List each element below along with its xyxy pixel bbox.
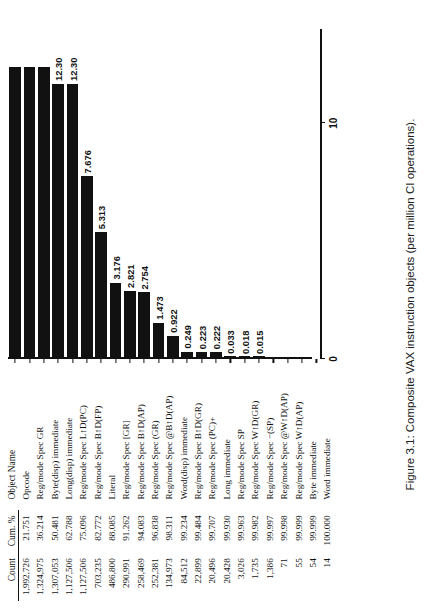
category-tick xyxy=(58,359,59,363)
row-object-name: Reg/mode Spec @B↑D(AP) xyxy=(163,387,177,509)
row-object-name: Reg/mode Spec −(SP) xyxy=(263,387,277,509)
row-count: 1,324,975 xyxy=(34,552,48,601)
category-tick xyxy=(144,359,145,363)
row-count: 258,469 xyxy=(134,552,148,601)
row-cum-pct: 99.930 xyxy=(220,510,234,553)
bar-row xyxy=(295,7,309,359)
row-cum-pct: 99.999 xyxy=(306,510,320,553)
bar-row: 12.30 xyxy=(51,7,65,359)
bar-value-label: 0.033 xyxy=(225,330,236,356)
column-header-cum-pct: Cum. % xyxy=(8,510,19,553)
bar-value-label: 0.223 xyxy=(196,326,207,352)
row-cum-pct: 36.214 xyxy=(34,510,48,553)
category-tick xyxy=(43,359,44,363)
bar-row: 0.249 xyxy=(180,7,194,359)
bar-row: 5.313 xyxy=(94,7,108,359)
row-count: 14 xyxy=(321,552,335,601)
bar-value-label: 1.473 xyxy=(153,296,164,322)
row-object-name: Reg/mode Spec W↑D(AP) xyxy=(292,387,306,509)
bar-chart: 12.3012.307.6765.3133.1762.8212.7541.473… xyxy=(8,7,438,359)
row-cum-pct: 100.000 xyxy=(321,510,335,553)
bar-value-label: 2.754 xyxy=(139,266,150,292)
bar-value-label: 0.249 xyxy=(182,325,193,351)
table-row: 252,38196.838Reg/mode Spec (GR) xyxy=(149,387,163,601)
table-row: 134,97398.311Reg/mode Spec @B↑D(AP) xyxy=(163,387,177,601)
row-count: 54 xyxy=(306,552,320,601)
bar-value-label: 0.015 xyxy=(254,331,265,357)
row-object-name: Byte(disp) immediate xyxy=(48,387,62,509)
row-count: 1,386 xyxy=(263,552,277,601)
figure-caption: Figure 3.1: Composite VAX instruction ob… xyxy=(404,0,416,609)
row-cum-pct: 99.997 xyxy=(263,510,277,553)
row-cum-pct: 21.751 xyxy=(19,510,34,553)
table-body: 1,992,72621.751Opcode1,324,97536.214Reg/… xyxy=(19,387,335,601)
category-tick xyxy=(215,359,216,363)
row-count: 1,992,726 xyxy=(19,552,34,601)
row-cum-pct: 98.311 xyxy=(163,510,177,553)
row-cum-pct: 96.838 xyxy=(149,510,163,553)
category-tick xyxy=(230,359,231,363)
row-cum-pct: 99.998 xyxy=(278,510,292,553)
table-row: 20,42899.930Long immediate xyxy=(220,387,234,601)
table-row: 258,46994.083Reg/mode Spec B↑D(AP) xyxy=(134,387,148,601)
value-axis: 010 xyxy=(320,7,360,359)
bar-row: 0.018 xyxy=(238,7,252,359)
bar-row xyxy=(22,7,36,359)
bar-value-label: 3.176 xyxy=(110,256,121,282)
category-tick xyxy=(201,359,202,363)
table-row: 290,99191.262Reg/mode Spec [GR] xyxy=(120,387,134,601)
row-count: 20,428 xyxy=(220,552,234,601)
bar-row: 2.754 xyxy=(137,7,151,359)
row-object-name: Reg/mode Spec (GR) xyxy=(149,387,163,509)
row-count: 1,127,506 xyxy=(77,552,91,601)
bar-row: 0.222 xyxy=(209,7,223,359)
table-row: 22,89999.484Reg/mode Spec B↑D(GR) xyxy=(192,387,206,601)
bar-value-label: 12.30 xyxy=(53,58,64,84)
category-tick xyxy=(29,359,30,363)
row-count: 134,973 xyxy=(163,552,177,601)
table-row: 84,51299.234Word(disp) immediate xyxy=(177,387,191,601)
bar xyxy=(124,291,136,357)
row-count: 3,026 xyxy=(235,552,249,601)
category-tick xyxy=(172,359,173,363)
table-row: 20,49699.707Reg/mode Spec (PC)+ xyxy=(206,387,220,601)
rotated-figure-stage: Count Cum. % Object Name 1,992,72621.751… xyxy=(0,0,445,609)
bar-row: 0.223 xyxy=(194,7,208,359)
row-cum-pct: 99.234 xyxy=(177,510,191,553)
bar xyxy=(196,352,208,357)
category-tick xyxy=(244,359,245,363)
row-count: 55 xyxy=(292,552,306,601)
bar-row: 7.676 xyxy=(80,7,94,359)
category-tick xyxy=(158,359,159,363)
bar-row xyxy=(281,7,295,359)
bar-row: 2.821 xyxy=(123,7,137,359)
bar-row: 1.473 xyxy=(151,7,165,359)
row-count: 1,735 xyxy=(249,552,263,601)
instruction-objects-table: Count Cum. % Object Name 1,992,72621.751… xyxy=(8,387,335,601)
bar-value-label: 0.018 xyxy=(239,331,250,357)
table-header: Count Cum. % Object Name xyxy=(8,387,19,601)
row-cum-pct: 99.963 xyxy=(235,510,249,553)
bar xyxy=(110,283,122,358)
row-object-name: Reg/mode Spec L↑D(PC) xyxy=(77,387,91,509)
bar-value-label: 2.821 xyxy=(124,264,135,290)
row-object-name: Reg/mode Spec GR xyxy=(34,387,48,509)
category-tick xyxy=(301,359,302,363)
row-count: 252,381 xyxy=(149,552,163,601)
bar-row: 3.176 xyxy=(108,7,122,359)
row-object-name: Reg/mode Spec (PC)+ xyxy=(206,387,220,509)
bar xyxy=(138,293,150,358)
table-row: 703,23582.772Reg/mode Spec B↑D(FP) xyxy=(91,387,105,601)
table-row: 3,02699.963Reg/mode Spec SP xyxy=(235,387,249,601)
category-tick xyxy=(115,359,116,363)
bar xyxy=(95,232,107,357)
table-row: 1,307,05350.481Byte(disp) immediate xyxy=(48,387,62,601)
table-row: 1,127,50662.788Long(disp) immediate xyxy=(62,387,76,601)
row-cum-pct: 82.772 xyxy=(91,510,105,553)
category-tick xyxy=(187,359,188,363)
category-tick xyxy=(258,359,259,363)
row-object-name: Long immediate xyxy=(220,387,234,509)
row-count: 703,235 xyxy=(91,552,105,601)
bar xyxy=(52,84,64,357)
row-object-name: Reg/mode Spec SP xyxy=(235,387,249,509)
